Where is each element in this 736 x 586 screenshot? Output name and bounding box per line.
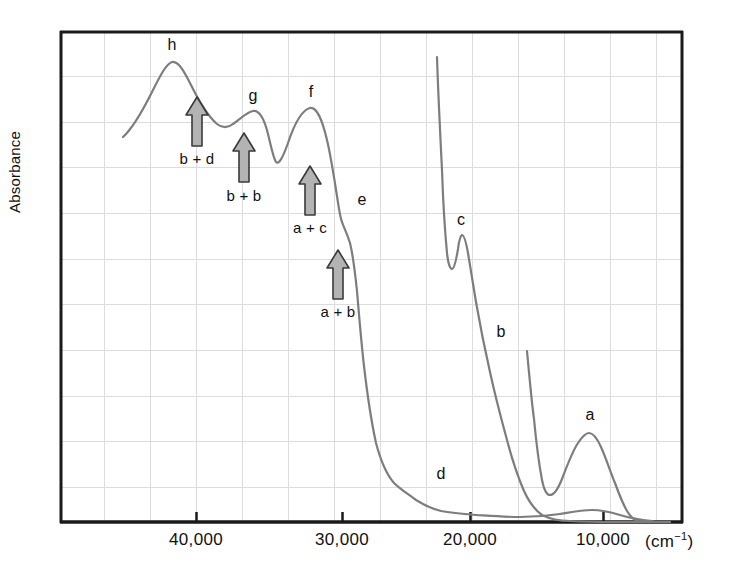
x-unit-exponent: −1	[674, 530, 687, 542]
peak-label-c: c	[457, 211, 465, 229]
x-tick-label-30000: 30,000	[315, 530, 369, 550]
peak-label-d: d	[437, 465, 446, 483]
arrow-label-a-plus-c: a + c	[293, 219, 327, 236]
x-tick-label-40000: 40,000	[169, 530, 223, 550]
plot-background	[60, 31, 683, 523]
x-unit-close: )	[687, 532, 693, 551]
chart-canvas	[0, 0, 736, 586]
peak-label-a: a	[586, 406, 595, 424]
x-tick-label-20000: 20,000	[443, 530, 497, 550]
arrow-label-b-plus-d: b + d	[180, 150, 215, 167]
peak-label-g: g	[249, 87, 258, 105]
y-axis-title: Absorbance	[6, 33, 23, 213]
peak-label-h: h	[168, 36, 177, 54]
x-axis-unit-label: (cm−1)	[645, 530, 693, 552]
arrow-label-a-plus-b: a + b	[321, 303, 356, 320]
x-tick-label-10000: 10,000	[576, 530, 630, 550]
peak-label-e: e	[358, 191, 367, 209]
peak-label-b: b	[497, 323, 506, 341]
arrow-label-b-plus-b: b + b	[227, 187, 262, 204]
spectrum-figure: Absorbance 40,000 30,000 20,000 10,000 (…	[0, 0, 736, 586]
peak-label-f: f	[309, 83, 313, 101]
x-unit-open: (cm	[645, 532, 674, 551]
